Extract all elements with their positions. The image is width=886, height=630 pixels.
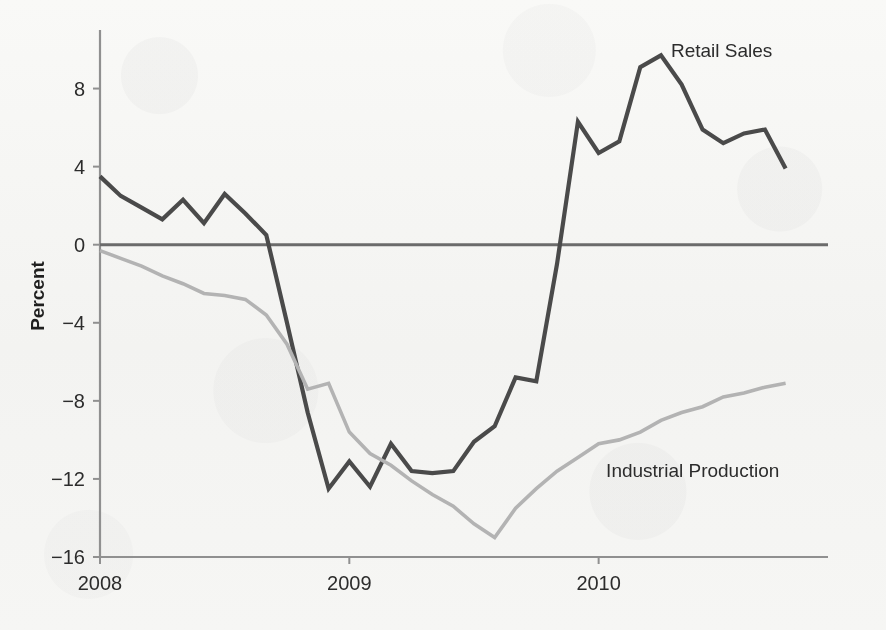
x-axis-tick-label: 2008 [78, 572, 123, 594]
y-axis-tick-label: −8 [62, 390, 85, 412]
y-axis-tick-label: 4 [74, 156, 85, 178]
y-axis-tick-label: −12 [51, 468, 85, 490]
y-axis-title: Percent [27, 260, 48, 330]
series-line-industrial-production [100, 251, 786, 538]
y-axis-tick-labels: 840−4−8−12−16 [51, 78, 100, 568]
line-chart-svg: 840−4−8−12−16 200820092010 Retail SalesI… [0, 0, 886, 630]
x-axis-tick-labels: 200820092010 [78, 557, 621, 594]
y-axis-tick-label: 0 [74, 234, 85, 256]
y-axis-tick-label: −4 [62, 312, 85, 334]
chart-container: 840−4−8−12−16 200820092010 Retail SalesI… [0, 0, 886, 630]
x-axis-tick-label: 2010 [576, 572, 621, 594]
y-axis-tick-label: 8 [74, 78, 85, 100]
series-line-retail-sales [100, 55, 786, 488]
series-annotation-industrial-production: Industrial Production [606, 460, 779, 481]
x-axis-tick-label: 2009 [327, 572, 372, 594]
y-axis-title-group: Percent [27, 260, 48, 330]
series-annotation-retail-sales: Retail Sales [671, 40, 772, 61]
y-axis-tick-label: −16 [51, 546, 85, 568]
